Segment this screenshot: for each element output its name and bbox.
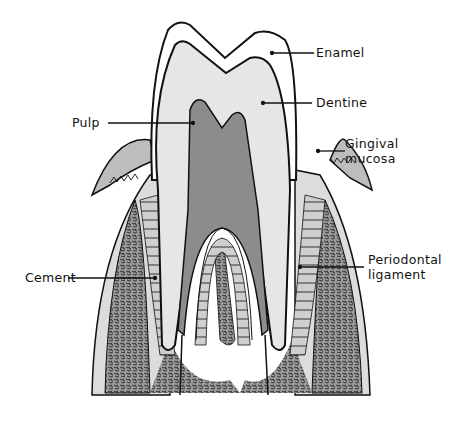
label-enamel: Enamel: [316, 46, 365, 60]
label-cement: Cement: [25, 271, 76, 285]
label-periodontal-line2: ligament: [368, 268, 426, 282]
tooth-diagram: [0, 0, 469, 430]
label-pulp: Pulp: [72, 116, 100, 130]
label-periodontal-line1: Periodontal: [368, 253, 442, 267]
label-dentine: Dentine: [316, 96, 367, 110]
label-gingival-line2: mucosa: [345, 152, 396, 166]
label-gingival-line1: Gingival: [345, 137, 398, 151]
